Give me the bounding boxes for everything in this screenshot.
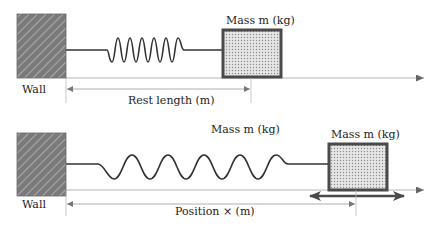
rest-length-label: Rest length (m) <box>128 94 215 107</box>
bottom-mass-block <box>329 144 387 190</box>
top-wall-label: Wall <box>22 83 46 96</box>
top-mass-label: Mass m (kg) <box>226 14 295 27</box>
bottom-wall-label: Wall <box>22 198 46 211</box>
bottom-spring <box>66 155 328 179</box>
bottom-mass-label: Mass m (kg) <box>331 128 400 141</box>
top-mass-block <box>223 30 281 77</box>
bottom-diagram: Wall Mass m (kg) Mass m (kg) Position × … <box>17 123 424 218</box>
top-spring <box>66 38 222 62</box>
position-label: Position × (m) <box>175 205 255 218</box>
mass-spring-diagram: Wall Mass m (kg) Rest length (m) Wall Ma… <box>0 0 437 238</box>
bottom-floating-mass-label: Mass m (kg) <box>211 123 280 136</box>
top-diagram: Wall Mass m (kg) Rest length (m) <box>17 14 424 107</box>
top-wall <box>17 14 66 78</box>
bottom-wall <box>17 133 66 196</box>
